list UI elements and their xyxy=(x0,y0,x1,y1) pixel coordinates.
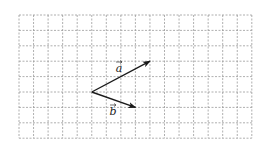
vector-b-label: b xyxy=(109,105,116,118)
dashed-grid xyxy=(19,15,252,138)
vector-a-label: a xyxy=(116,62,123,75)
vector-labels: ab xyxy=(109,61,122,119)
vector-grid-figure: ab xyxy=(0,0,271,144)
